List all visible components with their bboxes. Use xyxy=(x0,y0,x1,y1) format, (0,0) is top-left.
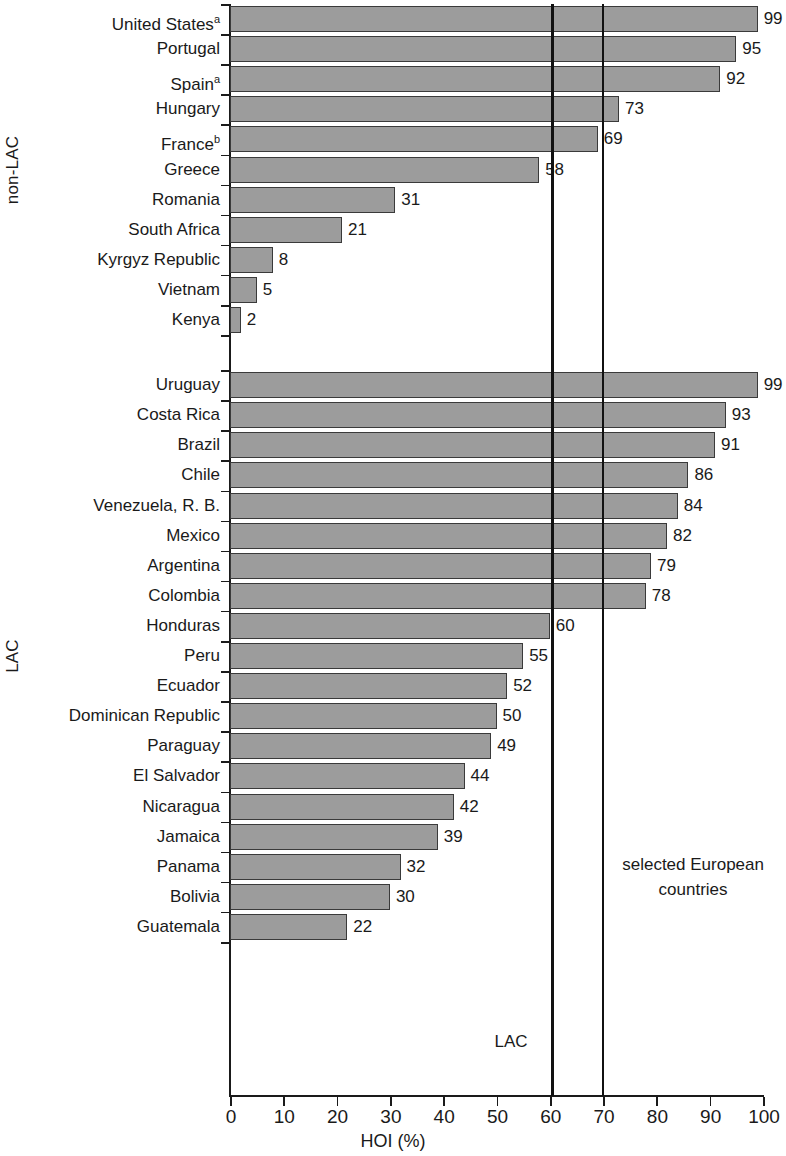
bar-row: Peru55 xyxy=(230,641,763,671)
y-axis-tick xyxy=(221,852,230,854)
bar-row: Guatemala22 xyxy=(230,912,763,942)
bar xyxy=(230,583,646,609)
bar xyxy=(230,36,736,62)
bar-value-label: 86 xyxy=(694,462,713,488)
bar xyxy=(230,462,688,488)
x-axis-tick xyxy=(603,1097,605,1106)
bar-value-label: 42 xyxy=(460,794,479,820)
bar-value-label: 60 xyxy=(556,613,575,639)
bar-value-label: 73 xyxy=(625,96,644,122)
y-axis-tick xyxy=(221,491,230,493)
bar-row-end xyxy=(230,335,763,365)
category-label: Ecuador xyxy=(0,673,220,699)
y-axis-tick xyxy=(221,701,230,703)
y-axis-tick xyxy=(221,275,230,277)
bar-row: Jamaica39 xyxy=(230,822,763,852)
reference-line-label-lac: LAC xyxy=(494,1032,527,1052)
x-axis-tick xyxy=(656,1097,658,1106)
category-footnote: b xyxy=(214,133,220,145)
y-axis-tick xyxy=(221,94,230,96)
bar xyxy=(230,794,454,820)
bar-row: Mexico82 xyxy=(230,521,763,551)
bar-row: Uruguay99 xyxy=(230,370,763,400)
bar-row: El Salvador44 xyxy=(230,761,763,791)
y-axis-tick xyxy=(221,335,230,337)
bar xyxy=(230,372,758,398)
bar-value-label: 99 xyxy=(764,6,783,32)
bar-row: Spaina92 xyxy=(230,64,763,94)
bar xyxy=(230,914,347,940)
bar-value-label: 22 xyxy=(353,914,372,940)
category-label: Dominican Republic xyxy=(0,703,220,729)
y-axis-tick xyxy=(221,882,230,884)
y-axis-tick xyxy=(221,761,230,763)
bar xyxy=(230,673,507,699)
bar xyxy=(230,187,395,213)
bar-row: Nicaragua42 xyxy=(230,792,763,822)
bar xyxy=(230,247,273,273)
bar xyxy=(230,493,678,519)
bar xyxy=(230,66,720,92)
bar-value-label: 50 xyxy=(503,703,522,729)
bar-row: Brazil91 xyxy=(230,430,763,460)
bar-value-label: 79 xyxy=(657,553,676,579)
x-axis-tick xyxy=(710,1097,712,1106)
bar-value-label: 95 xyxy=(742,36,761,62)
y-axis-tick xyxy=(221,124,230,126)
x-axis-tick-label: 20 xyxy=(327,1106,348,1128)
bar xyxy=(230,613,550,639)
x-axis-tick-label: 0 xyxy=(226,1106,237,1128)
bar-value-label: 32 xyxy=(407,854,426,880)
bar-row: Portugal95 xyxy=(230,34,763,64)
bar-value-label: 99 xyxy=(764,372,783,398)
x-axis-tick-label: 80 xyxy=(647,1106,668,1128)
bar-value-label: 30 xyxy=(396,884,415,910)
european-label-line2: countries xyxy=(609,877,777,902)
category-label: Kyrgyz Republic xyxy=(0,247,220,273)
bar-row: Dominican Republic50 xyxy=(230,701,763,731)
x-axis-tick xyxy=(283,1097,285,1106)
bar-row: Venezuela, R. B.84 xyxy=(230,491,763,521)
bar-row: Argentina79 xyxy=(230,551,763,581)
bar xyxy=(230,217,342,243)
category-footnote: a xyxy=(214,13,220,25)
bar-value-label: 78 xyxy=(652,583,671,609)
bar-row: Ecuador52 xyxy=(230,671,763,701)
category-label: Colombia xyxy=(0,583,220,609)
y-axis-tick xyxy=(221,245,230,247)
x-axis-tick xyxy=(230,1097,232,1106)
bar-row: Honduras60 xyxy=(230,611,763,641)
bar-row: Kyrgyz Republic8 xyxy=(230,245,763,275)
bar xyxy=(230,6,758,32)
category-label: Portugal xyxy=(0,36,220,62)
bar-row: Paraguay49 xyxy=(230,731,763,761)
bar-value-label: 21 xyxy=(348,217,367,243)
bar-value-label: 2 xyxy=(247,307,256,333)
x-axis-tick xyxy=(337,1097,339,1106)
category-label: Brazil xyxy=(0,432,220,458)
bar-row: Costa Rica93 xyxy=(230,400,763,430)
x-axis-tick xyxy=(763,1097,765,1106)
category-label: Franceb xyxy=(0,126,220,152)
bar-row: Romania31 xyxy=(230,185,763,215)
european-label-line1: selected European xyxy=(609,852,777,877)
category-label: Argentina xyxy=(0,553,220,579)
bar xyxy=(230,126,598,152)
y-axis-tick xyxy=(221,370,230,372)
x-axis-tick-label: 40 xyxy=(434,1106,455,1128)
bar-value-label: 39 xyxy=(444,824,463,850)
category-label: Jamaica xyxy=(0,824,220,850)
bar xyxy=(230,277,257,303)
category-label: South Africa xyxy=(0,217,220,243)
category-label: Kenya xyxy=(0,307,220,333)
category-label: Bolivia xyxy=(0,884,220,910)
reference-line-selected xyxy=(602,4,605,1096)
bar-value-label: 82 xyxy=(673,523,692,549)
hoi-bar-chart: non-LAC LAC United Statesa99Portugal95Sp… xyxy=(0,0,786,1156)
y-axis-tick xyxy=(221,460,230,462)
reference-line-label-european: selected Europeancountries xyxy=(609,852,777,902)
bar xyxy=(230,884,390,910)
bar-value-label: 69 xyxy=(604,126,623,152)
bar-row: United Statesa99 xyxy=(230,4,763,34)
bar xyxy=(230,703,497,729)
